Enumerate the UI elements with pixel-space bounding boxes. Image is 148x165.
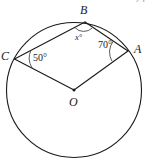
angle-arc-C xyxy=(29,50,32,68)
angle-label-x: x° xyxy=(75,33,82,42)
point-label-A: A xyxy=(134,43,141,55)
point-label-O: O xyxy=(69,96,78,108)
angle-label-50: 50° xyxy=(33,53,47,63)
point-label-C: C xyxy=(1,50,9,62)
point-label-B: B xyxy=(80,4,87,16)
geometry-figure: 25 B C A O x° 70° 50° xyxy=(0,0,148,165)
angle-arc-B xyxy=(75,27,92,31)
segment-AO xyxy=(74,51,128,90)
angle-label-70: 70° xyxy=(98,40,112,50)
geometry-canvas xyxy=(0,0,148,165)
segment-OC xyxy=(15,59,75,90)
vertex-dot-O xyxy=(73,89,76,92)
